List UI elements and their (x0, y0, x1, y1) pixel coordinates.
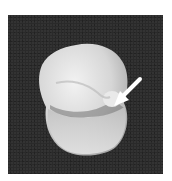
photo-frame (8, 15, 163, 174)
arrow-icon (8, 15, 163, 174)
